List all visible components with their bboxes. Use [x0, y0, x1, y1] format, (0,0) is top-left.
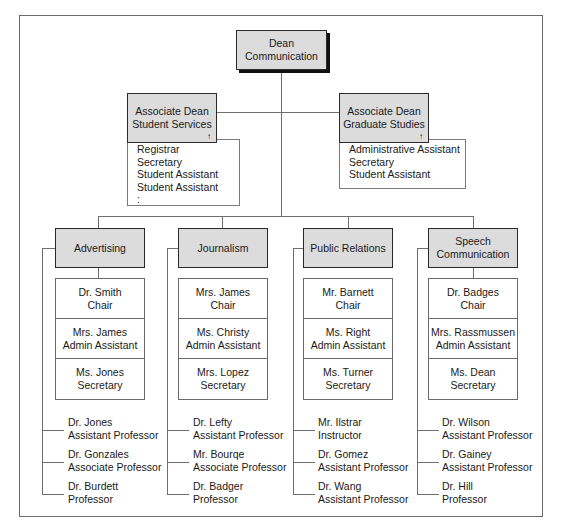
- staff-item: Student Assistant: [349, 168, 465, 181]
- faculty-tick: [293, 494, 315, 495]
- assoc-dean-title: Associate Dean: [135, 105, 209, 118]
- staff-item: Student Assistant: [137, 168, 239, 181]
- staff-stack-journalism: Mrs. JamesChair Ms. ChristyAdmin Assista…: [178, 278, 268, 400]
- faculty-entry: Dr. WangAssistant Professor: [318, 480, 408, 506]
- assoc-dean-graduate-studies-staff-list: Administrative Assistant Secretary Stude…: [339, 139, 466, 189]
- faculty-spine-advertising: [42, 248, 43, 495]
- connector-drop-advertising: [98, 216, 99, 228]
- faculty-title: Assistant Professor: [442, 429, 532, 442]
- faculty-title: Professor: [193, 493, 243, 506]
- faculty-title: Associate Professor: [68, 461, 161, 474]
- faculty-name: Dr. Burdett: [68, 480, 118, 493]
- faculty-name: Dr. Gonzales: [68, 448, 161, 461]
- faculty-entry: Dr. JonesAssistant Professor: [68, 416, 158, 442]
- staff-item: Secretary: [137, 156, 239, 169]
- assoc-dean-student-services-staff-list: Registrar Secretary Student Assistant St…: [127, 139, 240, 206]
- staff-title: Admin Assistant: [63, 339, 138, 352]
- staff-name: Dr. Smith: [78, 286, 121, 299]
- faculty-name: Dr. Jones: [68, 416, 158, 429]
- staff-cell: Mrs. LopezSecretary: [179, 359, 267, 399]
- faculty-name: Dr. Gainey: [442, 448, 532, 461]
- dean-title: Dean: [269, 37, 294, 50]
- faculty-tick: [167, 430, 189, 431]
- faculty-tick: [293, 430, 315, 431]
- dept-name-line2: Communication: [437, 248, 510, 261]
- staff-title: Secretary: [201, 379, 246, 392]
- staff-cell: Dr. SmithChair: [56, 279, 144, 319]
- staff-name: Ms. Turner: [323, 366, 373, 379]
- staff-name: Dr. Badges: [447, 286, 499, 299]
- connector-drop-journalism: [222, 216, 223, 228]
- staff-title: Admin Assistant: [186, 339, 261, 352]
- dean-box: Dean Communication: [236, 30, 327, 70]
- staff-cell: Dr. BadgesChair: [429, 279, 517, 319]
- faculty-spine-public-relations: [293, 248, 294, 495]
- dept-name: Advertising: [74, 242, 126, 255]
- staff-name: Mrs. James: [73, 326, 127, 339]
- connector-speech-staff: [473, 268, 474, 278]
- staff-title: Chair: [460, 299, 485, 312]
- faculty-tick: [417, 494, 439, 495]
- staff-title: Chair: [335, 299, 360, 312]
- staff-cell: Mr. BarnettChair: [304, 279, 392, 319]
- faculty-entry: Mr. IlstrarInstructor: [318, 416, 362, 442]
- staff-cell: Ms. TurnerSecretary: [304, 359, 392, 399]
- staff-cell: Mrs. JamesChair: [179, 279, 267, 319]
- staff-item: Secretary: [349, 156, 465, 169]
- dept-name: Speech: [455, 235, 491, 248]
- faculty-tick: [293, 462, 315, 463]
- staff-item-ellipsis: :: [137, 193, 239, 206]
- staff-stack-speech-communication: Dr. BadgesChair Mrs. RassmussenAdmin Ass…: [428, 278, 518, 400]
- staff-stack-advertising: Dr. SmithChair Mrs. JamesAdmin Assistant…: [55, 278, 145, 400]
- faculty-entry: Dr. BurdettProfessor: [68, 480, 118, 506]
- faculty-entry: Dr. GonzalesAssociate Professor: [68, 448, 161, 474]
- staff-name: Mrs. Lopez: [197, 366, 249, 379]
- faculty-title: Professor: [442, 493, 487, 506]
- faculty-spine-speech: [417, 248, 418, 495]
- connector-assoc-horizontal: [216, 112, 340, 113]
- staff-item: Student Assistant: [137, 181, 239, 194]
- assoc-dean-area: Graduate Studies: [343, 118, 425, 131]
- staff-title: Secretary: [451, 379, 496, 392]
- faculty-spine-advertising-top: [42, 248, 55, 249]
- faculty-tick: [42, 462, 64, 463]
- faculty-entry: Mr. BourqeAssociate Professor: [193, 448, 286, 474]
- staff-name: Ms. Dean: [451, 366, 496, 379]
- dept-name: Public Relations: [310, 242, 385, 255]
- staff-title: Admin Assistant: [436, 339, 511, 352]
- faculty-tick: [167, 494, 189, 495]
- dean-department: Communication: [245, 50, 318, 63]
- dept-box-journalism: Journalism: [178, 228, 268, 268]
- faculty-spine-public-relations-top: [293, 248, 303, 249]
- assoc-dean-area: Student Services: [132, 118, 211, 131]
- staff-name: Ms. Christy: [197, 326, 250, 339]
- up-arrow-icon: ↑: [207, 133, 211, 141]
- faculty-title: Professor: [68, 493, 118, 506]
- faculty-name: Dr. Gomez: [318, 448, 408, 461]
- staff-title: Secretary: [78, 379, 123, 392]
- staff-title: Chair: [87, 299, 112, 312]
- connector-advertising-staff: [98, 268, 99, 278]
- faculty-title: Instructor: [318, 429, 362, 442]
- faculty-title: Assistant Professor: [68, 429, 158, 442]
- staff-title: Secretary: [326, 379, 371, 392]
- faculty-spine-journalism: [167, 248, 168, 495]
- faculty-entry: Dr. LeftyAssistant Professor: [193, 416, 283, 442]
- connector-dept-horizontal: [98, 216, 474, 217]
- staff-stack-public-relations: Mr. BarnettChair Ms. RightAdmin Assistan…: [303, 278, 393, 400]
- staff-cell: Mrs. JamesAdmin Assistant: [56, 319, 144, 359]
- faculty-name: Dr. Badger: [193, 480, 243, 493]
- faculty-tick: [417, 462, 439, 463]
- faculty-tick: [42, 494, 64, 495]
- faculty-entry: Dr. GomezAssistant Professor: [318, 448, 408, 474]
- dept-box-speech-communication: Speech Communication: [428, 228, 518, 268]
- faculty-entry: Dr. HillProfessor: [442, 480, 487, 506]
- staff-cell: Ms. RightAdmin Assistant: [304, 319, 392, 359]
- staff-name: Mrs. James: [196, 286, 250, 299]
- staff-item: Administrative Assistant: [349, 143, 465, 156]
- staff-name: Mr. Barnett: [322, 286, 373, 299]
- faculty-title: Assistant Professor: [193, 429, 283, 442]
- staff-title: Admin Assistant: [311, 339, 386, 352]
- faculty-name: Mr. Ilstrar: [318, 416, 362, 429]
- dept-box-public-relations: Public Relations: [303, 228, 393, 268]
